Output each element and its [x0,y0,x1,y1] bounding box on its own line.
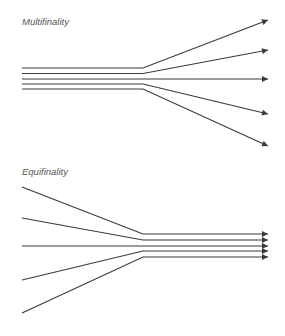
pathway-lines [0,0,285,336]
converging-arrow-path [22,218,268,240]
diverging-arrow-path [22,50,268,74]
diverging-arrow-path [22,20,268,68]
diverging-arrow-path [22,89,268,146]
converging-arrow-path [22,257,268,313]
converging-arrow-path [22,187,268,234]
converging-arrow-path [22,251,268,280]
